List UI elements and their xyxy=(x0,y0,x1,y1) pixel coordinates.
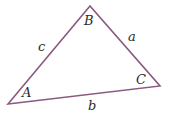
side-label-b: b xyxy=(88,99,96,112)
vertex-label-a: A xyxy=(22,86,31,99)
vertex-label-b: B xyxy=(84,14,94,27)
side-label-a: a xyxy=(128,30,136,43)
side-label-c: c xyxy=(38,40,45,53)
vertex-label-c: C xyxy=(136,73,146,86)
